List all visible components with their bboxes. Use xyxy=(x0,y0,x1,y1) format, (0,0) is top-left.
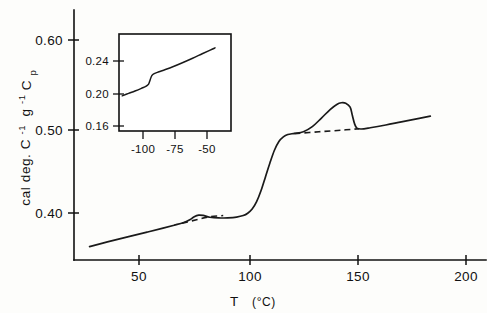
inset-x-tick-label--50: -50 xyxy=(198,143,216,155)
x-tick-label-50: 50 xyxy=(131,269,147,284)
figure-container: 0.60 0.50 0.40 50 100 150 200 T (°C) cal… xyxy=(0,0,487,313)
svg-text:C p: C p xyxy=(19,70,38,91)
y-axis-units-a: cal deg. C xyxy=(18,139,33,206)
inset-y-tick-label-0.24: 0.24 xyxy=(85,55,109,67)
x-axis-units: (°C) xyxy=(252,295,276,309)
x-axis-title: T (°C) xyxy=(230,294,276,309)
x-tick-label-100: 100 xyxy=(238,269,262,284)
cp-vs-temperature-chart: 0.60 0.50 0.40 50 100 150 200 T (°C) cal… xyxy=(0,0,487,313)
y-tick-label-0.50: 0.50 xyxy=(35,123,63,138)
y-axis-symbol-group: C p xyxy=(19,70,38,91)
y-tick-label-0.60: 0.60 xyxy=(35,33,63,48)
y-axis-title: cal deg. C -1 g -1 xyxy=(13,94,33,205)
low-temperature-baseline xyxy=(182,216,223,224)
inset-y-tick-label-0.16: 0.16 xyxy=(85,120,109,132)
inset-plot: 0.24 0.20 0.16 -100 -75 -50 xyxy=(85,34,231,155)
x-axis-title-symbol: T (°C) xyxy=(230,294,276,309)
y-axis-ticks: 0.60 0.50 0.40 xyxy=(35,33,79,221)
y-tick-label-0.40: 0.40 xyxy=(35,206,63,221)
y-axis-units-b-exponent: -1 xyxy=(16,94,27,104)
y-axis-units-a-exponent: -1 xyxy=(16,125,27,135)
inset-x-tick-label--75: -75 xyxy=(166,143,184,155)
y-axis-symbol-subscript: p xyxy=(27,70,38,76)
x-tick-label-150: 150 xyxy=(346,269,370,284)
y-axis-symbol: C xyxy=(19,80,34,90)
inset-y-tick-label-0.20: 0.20 xyxy=(85,88,109,100)
y-axis-units-b: g xyxy=(18,108,33,116)
inset-x-tick-label--100: -100 xyxy=(131,143,155,155)
x-tick-label-200: 200 xyxy=(454,269,478,284)
x-axis-symbol: T xyxy=(230,294,239,309)
y-axis-title-units: cal deg. C -1 g -1 xyxy=(13,94,33,205)
inset-x-ticks: -100 -75 -50 xyxy=(131,131,216,155)
